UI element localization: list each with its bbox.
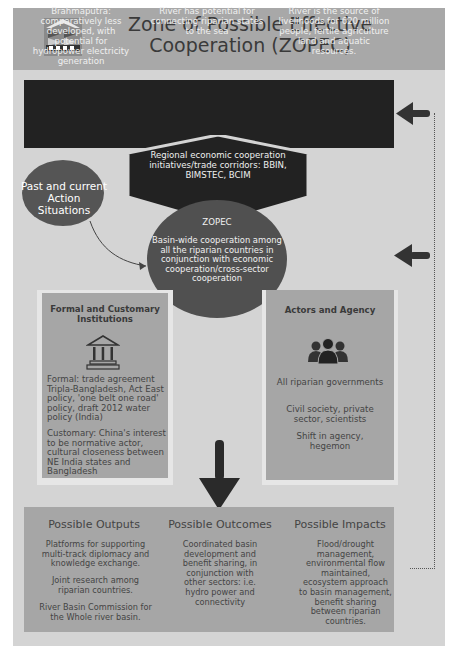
outputs-item-platforms: Platforms for supporting multi-track dip…	[38, 540, 153, 569]
outcomes-title: Possible Outcomes	[165, 518, 275, 531]
feedback-loop-line	[434, 113, 435, 569]
impacts-text: Flood/drought management, environmental …	[298, 540, 393, 626]
institutions-title: Formal and Customary Institutions	[44, 304, 166, 324]
actors-item-governments: All riparian governments	[276, 378, 384, 388]
regional-cooperation-text: Regional economic cooperation initiative…	[140, 150, 296, 180]
outcomes-text: Coordinated basin development and benefi…	[180, 540, 260, 607]
institution-building-icon	[86, 334, 120, 370]
context-item-connectivity: River has potential for connecting ripar…	[148, 6, 266, 36]
impacts-title: Possible Impacts	[285, 518, 395, 531]
zopec-description: Basin-wide cooperation among all the rip…	[150, 236, 284, 284]
context-item-brahmaputra: Brahmaputra: comparatively less develope…	[28, 6, 134, 66]
outputs-title: Possible Outputs	[34, 518, 154, 531]
institutions-formal: Formal: trade agreement Tripla-Banglades…	[47, 375, 169, 423]
past-action-situations-label: Past and current Action Situations	[20, 180, 108, 216]
institutions-customary: Customary: China's interest to be normat…	[47, 429, 169, 477]
feedback-loop-line-bottom	[410, 568, 435, 569]
people-group-icon	[307, 338, 349, 364]
outputs-item-river-basin-commission: River Basin Commission for the Whole riv…	[36, 603, 155, 622]
actors-item-shift-agency: Shift in agency, hegemon	[276, 432, 384, 451]
context-item-livelihoods: River is the source of livelihoods for 6…	[278, 6, 390, 56]
actors-title: Actors and Agency	[268, 305, 392, 315]
actors-item-civil-society: Civil society, private sector, scientist…	[276, 405, 384, 424]
zopec-title: ZOPEC	[150, 217, 284, 227]
outputs-item-joint-research: Joint research among riparian countries.	[38, 576, 153, 595]
